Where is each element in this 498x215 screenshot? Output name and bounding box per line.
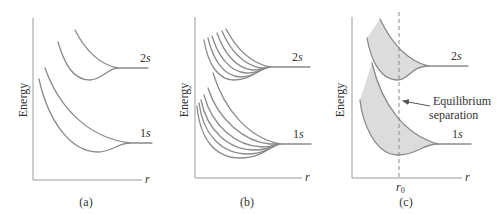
annotation-line-2: separation	[429, 108, 478, 122]
level-2s-curves	[58, 30, 148, 80]
panel-a: r Energy 2s 1s (a)	[16, 18, 152, 209]
level-label-2s: 2s	[451, 49, 462, 63]
level-1s-curves	[197, 73, 311, 158]
panel-caption-a: (a)	[79, 195, 92, 209]
y-axis-label: Energy	[177, 83, 191, 117]
level-label-1s: 1s	[293, 127, 304, 141]
level-label-2s: 2s	[292, 50, 303, 64]
x-axis-label: r	[305, 170, 310, 184]
y-axis-label: Energy	[333, 83, 347, 117]
y-axis-label: Energy	[16, 83, 30, 117]
equilibrium-marker: r0	[396, 180, 405, 195]
energy-band-figure: r Energy 2s 1s (a) r Energy 2s	[0, 0, 498, 215]
panel-c: r Energy 2s 1s r0 Equilibrium separation…	[333, 12, 492, 209]
level-label-1s: 1s	[452, 127, 463, 141]
panel-caption-b: (b)	[240, 195, 254, 209]
level-1s-curves	[39, 68, 152, 152]
x-axis-label: r	[145, 172, 150, 186]
panel-b: r Energy 2s 1s (b)	[177, 17, 311, 209]
annotation-line-1: Equilibrium	[433, 94, 492, 108]
annotation-arrow	[403, 101, 430, 106]
level-label-1s: 1s	[140, 126, 151, 140]
level-label-2s: 2s	[140, 51, 151, 65]
panel-caption-c: (c)	[399, 195, 412, 209]
x-axis-label: r	[465, 170, 470, 184]
